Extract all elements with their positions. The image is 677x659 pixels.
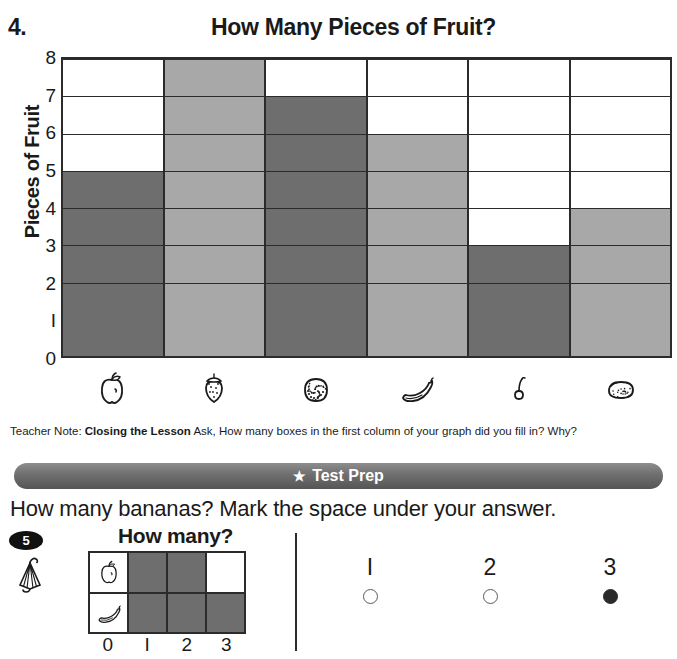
star-icon: ★ bbox=[293, 469, 306, 483]
banana-icon bbox=[366, 363, 468, 413]
bar-column-banana bbox=[368, 59, 470, 356]
chart-cell bbox=[368, 245, 468, 282]
chart-plot-area bbox=[61, 57, 672, 358]
bar-column-strawberry bbox=[165, 59, 267, 356]
bar-column-apple bbox=[63, 59, 165, 356]
banana-icon bbox=[90, 594, 129, 633]
answer-choice-3[interactable]: 3 bbox=[550, 555, 670, 604]
chart-cell bbox=[266, 320, 366, 356]
chart-cell bbox=[571, 283, 671, 320]
chart-cell bbox=[469, 245, 569, 282]
chart-cell bbox=[266, 208, 366, 245]
mini-chart-cell bbox=[168, 594, 207, 633]
chart-cell bbox=[469, 134, 569, 171]
y-axis-tick-7: 7 bbox=[26, 85, 56, 104]
y-axis-tick-5: 5 bbox=[26, 160, 56, 179]
bar-column-lemon bbox=[571, 59, 671, 356]
y-axis-tick-6: 6 bbox=[26, 123, 56, 142]
chart-cell bbox=[63, 171, 163, 208]
x-axis-fruit-icons bbox=[61, 363, 672, 413]
mini-chart-title: How many? bbox=[118, 524, 233, 548]
y-axis-tick-1: I bbox=[26, 311, 56, 330]
umbrella-icon bbox=[14, 553, 46, 599]
chart-cell bbox=[63, 283, 163, 320]
chart-cell bbox=[63, 208, 163, 245]
cherry-icon bbox=[468, 363, 570, 413]
chart-cell bbox=[368, 96, 468, 133]
chart-cell bbox=[469, 208, 569, 245]
teacher-note-prefix: Teacher Note: bbox=[10, 425, 85, 437]
chart-cell bbox=[571, 134, 671, 171]
chart-cell bbox=[63, 245, 163, 282]
item-number-badge: 5 bbox=[9, 531, 43, 550]
chart-cell bbox=[266, 283, 366, 320]
chart-cell bbox=[571, 59, 671, 96]
answer-label-1: I bbox=[367, 555, 373, 580]
chart-cell bbox=[165, 320, 265, 356]
mini-axis-label-2: 2 bbox=[167, 634, 207, 656]
chart-cell bbox=[266, 134, 366, 171]
mini-chart-cell bbox=[129, 594, 168, 633]
chart-cell bbox=[469, 96, 569, 133]
y-axis-tick-2: 2 bbox=[26, 273, 56, 292]
mini-axis-label-3: 3 bbox=[207, 634, 247, 656]
apple-icon bbox=[90, 553, 129, 592]
chart-cell bbox=[469, 171, 569, 208]
chart-cell bbox=[165, 208, 265, 245]
test-prep-banner: ★ Test Prep bbox=[14, 463, 663, 489]
y-axis-tick-3: 3 bbox=[26, 236, 56, 255]
chart-cell bbox=[165, 283, 265, 320]
chart-cell bbox=[63, 59, 163, 96]
chart-cell bbox=[266, 59, 366, 96]
chart-cell bbox=[368, 59, 468, 96]
apple-icon bbox=[61, 363, 163, 413]
mini-chart-row-banana bbox=[90, 594, 244, 633]
chart-cell bbox=[368, 320, 468, 356]
chart-cell bbox=[469, 320, 569, 356]
mini-chart-cell bbox=[207, 553, 244, 592]
y-axis-tick-0: 0 bbox=[26, 349, 56, 368]
test-prep-question: How many bananas? Mark the space under y… bbox=[10, 496, 556, 522]
chart-cell bbox=[63, 320, 163, 356]
y-axis-tick-4: 4 bbox=[26, 198, 56, 217]
mini-chart-axis-labels: 0I23 bbox=[88, 634, 246, 656]
chart-cell bbox=[165, 171, 265, 208]
test-prep-label: Test Prep bbox=[312, 467, 384, 485]
orange-icon bbox=[265, 363, 367, 413]
strawberry-icon bbox=[163, 363, 265, 413]
chart-title: How Many Pieces of Fruit? bbox=[0, 14, 677, 41]
answer-choices: I23 bbox=[310, 555, 670, 604]
chart-cell bbox=[368, 134, 468, 171]
chart-cell bbox=[571, 208, 671, 245]
chart-cell bbox=[368, 171, 468, 208]
mini-chart-cell bbox=[129, 553, 168, 592]
chart-cell bbox=[469, 59, 569, 96]
chart-cell bbox=[165, 245, 265, 282]
chart-cell bbox=[266, 245, 366, 282]
chart-cell bbox=[165, 134, 265, 171]
y-axis-tick-8: 8 bbox=[26, 48, 56, 67]
answer-bubble-1[interactable] bbox=[363, 589, 378, 604]
lemon-icon bbox=[570, 363, 672, 413]
teacher-note: Teacher Note: Closing the Lesson Ask, Ho… bbox=[10, 425, 577, 437]
chart-cell bbox=[469, 283, 569, 320]
answer-divider bbox=[295, 533, 297, 651]
bar-chart: Pieces of Fruit 0I2345678 bbox=[0, 52, 677, 364]
mini-chart bbox=[88, 551, 246, 634]
chart-cell bbox=[368, 283, 468, 320]
answer-choice-2[interactable]: 2 bbox=[430, 555, 550, 604]
chart-cell bbox=[571, 171, 671, 208]
chart-cell bbox=[63, 134, 163, 171]
mini-axis-label-I: I bbox=[128, 634, 168, 656]
chart-cell bbox=[266, 96, 366, 133]
chart-cell bbox=[165, 59, 265, 96]
teacher-note-bold: Closing the Lesson bbox=[85, 425, 191, 437]
answer-bubble-3[interactable] bbox=[603, 589, 618, 604]
mini-chart-cell bbox=[168, 553, 207, 592]
mini-chart-cell bbox=[207, 594, 244, 633]
teacher-note-body: Ask, How many boxes in the first column … bbox=[191, 425, 577, 437]
answer-bubble-2[interactable] bbox=[483, 589, 498, 604]
chart-cell bbox=[266, 171, 366, 208]
chart-cell bbox=[571, 96, 671, 133]
answer-choice-1[interactable]: I bbox=[310, 555, 430, 604]
